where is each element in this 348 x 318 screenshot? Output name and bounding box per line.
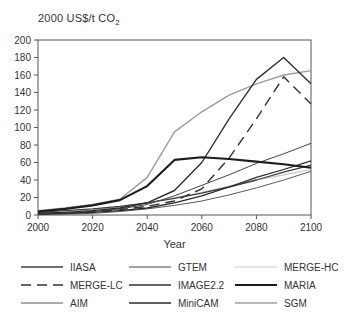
- x-tick-label: 2020: [81, 222, 104, 233]
- legend-item-minicam: MiniCAM: [128, 294, 234, 312]
- legend-label-image2.2: IMAGE2.2: [178, 280, 224, 291]
- legend-label-gtem: GTEM: [178, 262, 207, 273]
- y-tick-label: 60: [20, 157, 32, 168]
- x-tick-label: 2060: [191, 222, 214, 233]
- legend-swatch-iiasa: [20, 262, 64, 272]
- legend-item-image2.2: IMAGE2.2: [128, 276, 234, 294]
- legend-item-maria: MARIA: [234, 276, 340, 294]
- y-tick-label: 100: [14, 122, 31, 133]
- y-tick-label: 160: [14, 70, 31, 81]
- legend-label-sgm: SGM: [284, 298, 307, 309]
- legend-label-minicam: MiniCAM: [178, 298, 219, 309]
- x-tick-label: 2100: [300, 222, 323, 233]
- legend-label-aim: AIM: [70, 298, 88, 309]
- legend-swatch-image2.2: [128, 280, 172, 290]
- x-tick-label: 2040: [136, 222, 159, 233]
- y-tick-label: 20: [20, 192, 32, 203]
- x-tick-label: 2080: [245, 222, 268, 233]
- y-tick-label: 80: [20, 140, 32, 151]
- legend-swatch-merge-lc: [20, 280, 64, 290]
- legend-swatch-minicam: [128, 298, 172, 308]
- legend-swatch-merge-hc: [234, 262, 278, 272]
- legend-item-merge-lc: MERGE-LC: [20, 276, 128, 294]
- series-line-image2.2: [38, 58, 311, 214]
- carbon-price-figure: 2000 US$/t CO2 0204060801001201401601802…: [0, 0, 348, 318]
- plot-frame: [38, 40, 311, 215]
- legend-item-iiasa: IIASA: [20, 258, 128, 276]
- legend-swatch-sgm: [234, 298, 278, 308]
- legend-item-merge-hc: MERGE-HC: [234, 258, 340, 276]
- y-tick-label: 180: [14, 52, 31, 63]
- xaxis-label: Year: [38, 238, 311, 250]
- legend-label-maria: MARIA: [284, 280, 316, 291]
- series-line-gtem: [38, 143, 311, 214]
- x-tick-label: 2000: [27, 222, 50, 233]
- chart-legend: IIASAMERGE-LCAIMGTEMIMAGE2.2MiniCAMMERGE…: [20, 258, 340, 312]
- legend-item-aim: AIM: [20, 294, 128, 312]
- legend-item-sgm: SGM: [234, 294, 340, 312]
- legend-swatch-aim: [20, 298, 64, 308]
- legend-column-1: IIASAMERGE-LCAIM: [20, 258, 128, 312]
- y-tick-label: 200: [14, 35, 31, 46]
- y-tick-label: 0: [25, 210, 31, 221]
- y-tick-label: 40: [20, 175, 32, 186]
- legend-label-merge-lc: MERGE-LC: [70, 280, 123, 291]
- legend-swatch-gtem: [128, 262, 172, 272]
- legend-column-2: GTEMIMAGE2.2MiniCAM: [128, 258, 234, 312]
- legend-label-iiasa: IIASA: [70, 262, 96, 273]
- series-line-merge-lc: [38, 77, 311, 214]
- price-chart-svg: 0204060801001201401601802002000202020402…: [0, 0, 348, 236]
- legend-column-3: MERGE-HCMARIASGM: [234, 258, 340, 312]
- y-tick-label: 120: [14, 105, 31, 116]
- legend-swatch-maria: [234, 280, 278, 290]
- legend-item-gtem: GTEM: [128, 258, 234, 276]
- y-tick-label: 140: [14, 87, 31, 98]
- legend-label-merge-hc: MERGE-HC: [284, 262, 338, 273]
